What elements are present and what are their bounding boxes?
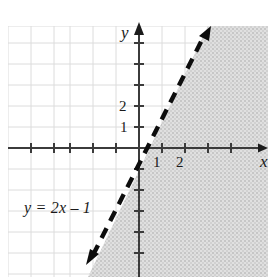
equation-label: y = 2x – 1 xyxy=(24,200,91,216)
x-axis-label: x xyxy=(260,153,268,170)
x-tick-label-1: 1 xyxy=(153,155,161,170)
x-tick-label-2: 2 xyxy=(176,155,184,170)
coordinate-plane-svg xyxy=(0,0,276,277)
y-tick-label-2: 2 xyxy=(119,99,127,114)
y-axis-label: y xyxy=(121,24,129,41)
graph-figure: y x 1 2 1 2 y = 2x – 1 xyxy=(0,0,276,277)
line-arrow-up xyxy=(199,26,211,41)
y-tick-label-1: 1 xyxy=(120,120,128,135)
